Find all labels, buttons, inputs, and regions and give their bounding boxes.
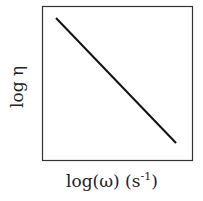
x-axis-label-close: ): [151, 171, 158, 191]
x-axis-label-exponent: -1: [140, 170, 151, 183]
x-axis-label-main: log(ω) (s: [66, 171, 140, 191]
y-axis-label: log η: [2, 78, 32, 108]
x-axis-label: log(ω) (s-1): [66, 170, 158, 191]
data-line: [56, 18, 176, 143]
